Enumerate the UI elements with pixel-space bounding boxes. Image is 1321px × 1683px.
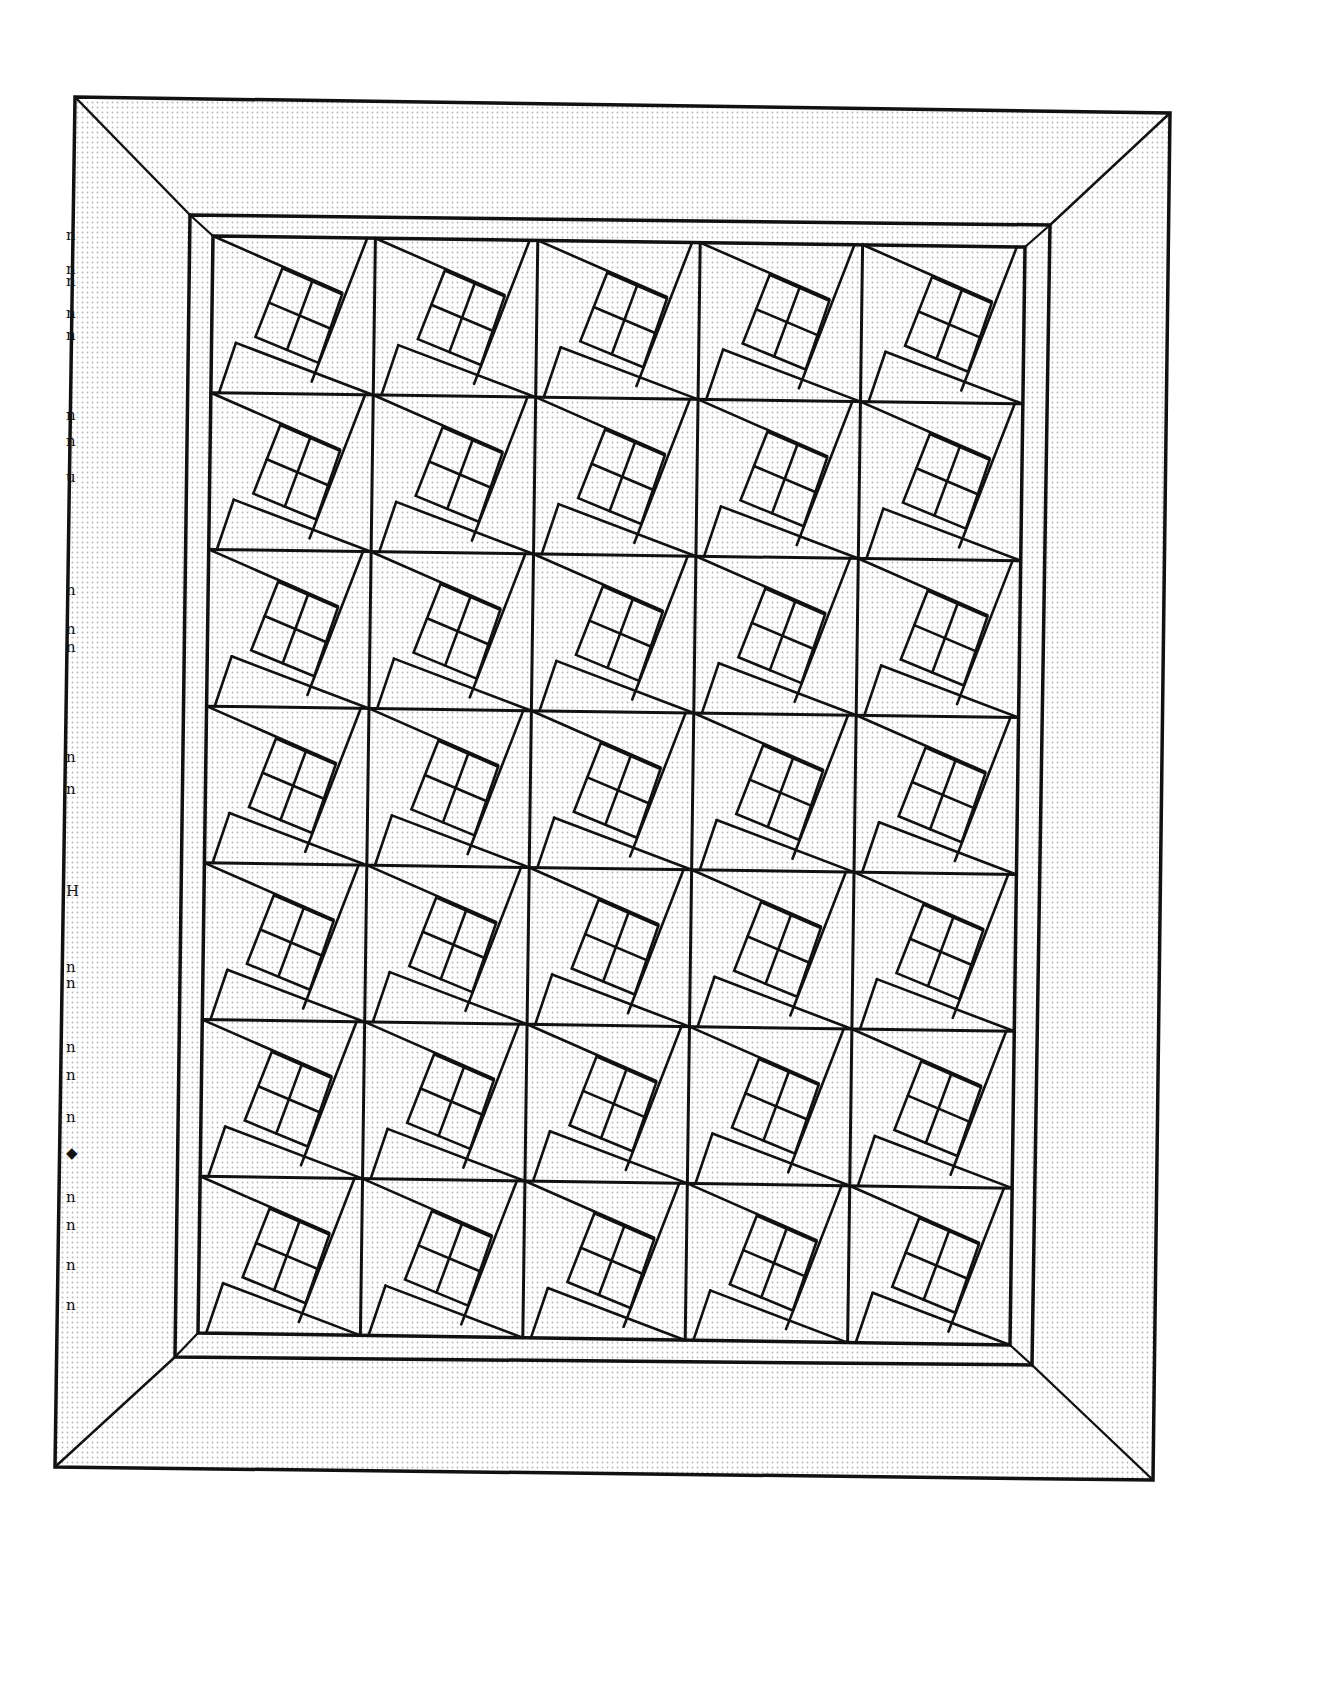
margin-mark: n bbox=[66, 1218, 76, 1233]
margin-mark: n bbox=[66, 622, 76, 637]
margin-mark: n bbox=[66, 1068, 76, 1083]
margin-mark: n bbox=[66, 1110, 76, 1125]
margin-mark: n bbox=[66, 960, 76, 975]
margin-mark: n bbox=[66, 782, 76, 797]
margin-mark: n bbox=[66, 328, 76, 343]
margin-mark: n bbox=[66, 1298, 76, 1313]
margin-mark: n bbox=[66, 408, 76, 423]
margin-mark: n bbox=[66, 1190, 76, 1205]
margin-mark: n bbox=[66, 1258, 76, 1273]
margin-mark: n bbox=[66, 228, 76, 243]
margin-mark: ◆ bbox=[66, 1146, 78, 1161]
margin-mark: n bbox=[66, 976, 76, 991]
margin-mark: n bbox=[66, 274, 76, 289]
margin-mark: n bbox=[66, 306, 76, 321]
margin-mark: n bbox=[66, 583, 76, 598]
margin-mark: n bbox=[66, 1040, 76, 1055]
margin-mark: u bbox=[66, 470, 76, 485]
margin-mark: n bbox=[66, 434, 76, 449]
margin-mark: n bbox=[66, 640, 76, 655]
quilt-diagram bbox=[0, 0, 1321, 1683]
margin-mark: H bbox=[66, 884, 79, 899]
margin-mark: n bbox=[66, 750, 76, 765]
margin-registration-marks: nnnnnnnunnnnnHnnnnn◆nnnn bbox=[66, 0, 86, 1683]
